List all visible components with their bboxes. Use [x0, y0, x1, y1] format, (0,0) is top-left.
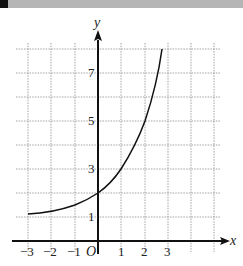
- y-axis-arrow-icon: [94, 30, 102, 41]
- x-tick-label: 3: [164, 244, 171, 259]
- x-tick-label: 1: [118, 244, 125, 259]
- x-axis-label: x: [229, 233, 237, 248]
- x-tick-label: −3: [20, 244, 34, 259]
- x-tick-label: −2: [43, 244, 57, 259]
- y-axis: [94, 30, 102, 254]
- grid: [16, 43, 220, 252]
- function-graph: −3 −2 −1 O 1 2 3 1 3 5 7 y x: [0, 0, 243, 266]
- y-tick-label: 5: [88, 113, 95, 128]
- y-tick-label: 3: [88, 161, 95, 176]
- y-axis-label: y: [92, 15, 101, 30]
- x-tick-label: 2: [141, 244, 148, 259]
- y-tick-label: 1: [88, 209, 95, 224]
- function-curve: [28, 49, 162, 214]
- x-tick-label: −1: [67, 244, 81, 259]
- y-tick-label: 7: [88, 65, 95, 80]
- origin-label: O: [86, 244, 96, 259]
